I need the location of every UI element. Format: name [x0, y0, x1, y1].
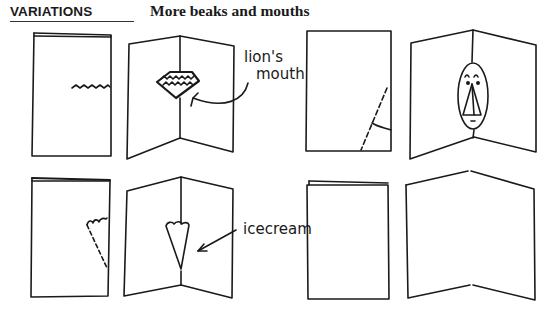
figure-icecream: icecream: [124, 177, 312, 298]
figure-folded-zigzag: [32, 33, 111, 156]
annotation-lions: lion's: [244, 48, 283, 66]
figure-face-beak: [410, 30, 536, 159]
zigzag-cut-icon: [72, 85, 110, 88]
annotation-mouth: mouth: [256, 65, 305, 83]
annotation-icecream: icecream: [243, 220, 312, 238]
icecream-shape: [166, 222, 189, 269]
figure-folded-scallop: [31, 178, 110, 297]
figure-folded-dashed: [306, 31, 391, 151]
illustrations: lion's mouth icecream: [0, 0, 558, 311]
arrow-icon: [198, 230, 236, 251]
arrow-icon: [193, 83, 248, 103]
figure-blank-folded: [307, 181, 389, 299]
figure-blank-open: [406, 171, 535, 300]
figure-lions-mouth: lion's mouth: [127, 36, 305, 159]
